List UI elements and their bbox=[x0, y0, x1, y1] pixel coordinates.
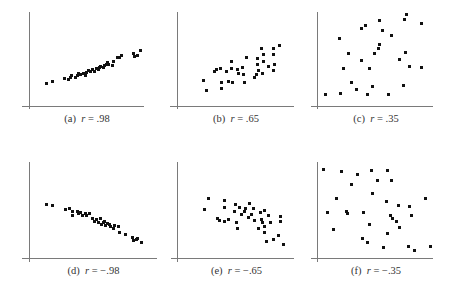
data-point bbox=[386, 232, 389, 235]
data-point bbox=[345, 210, 348, 213]
caption-r-value: = −.35 bbox=[371, 265, 401, 276]
scatter-panel-f: (f) r = −.35 bbox=[0, 0, 454, 291]
data-point bbox=[350, 183, 353, 186]
x-axis-line bbox=[311, 258, 433, 259]
data-point bbox=[332, 228, 335, 231]
data-point bbox=[385, 200, 388, 203]
data-point bbox=[370, 169, 373, 172]
data-point bbox=[356, 173, 359, 176]
data-point bbox=[391, 217, 394, 220]
data-point bbox=[362, 211, 365, 214]
data-point bbox=[395, 220, 398, 223]
data-point bbox=[371, 192, 374, 195]
data-point bbox=[407, 245, 410, 248]
data-point bbox=[368, 223, 371, 226]
data-point bbox=[366, 241, 369, 244]
caption-tag: (f) bbox=[351, 265, 362, 276]
correlation-scatter-figure: (a) r = .98(b) r = .65(c) r = .35(d) r =… bbox=[0, 0, 454, 291]
data-point bbox=[335, 197, 338, 200]
data-point bbox=[397, 204, 400, 207]
data-point bbox=[410, 214, 413, 217]
panel-caption: (f) r = −.35 bbox=[351, 265, 401, 276]
data-point bbox=[322, 168, 325, 171]
data-point bbox=[326, 211, 329, 214]
data-point bbox=[429, 245, 432, 248]
y-axis-line bbox=[317, 162, 318, 262]
data-point bbox=[390, 179, 393, 182]
data-point bbox=[386, 169, 389, 172]
data-point bbox=[398, 226, 401, 229]
data-point bbox=[361, 237, 364, 240]
data-point bbox=[382, 246, 385, 249]
data-point bbox=[424, 197, 427, 200]
data-point bbox=[376, 179, 379, 182]
data-point bbox=[408, 205, 411, 208]
data-point bbox=[340, 170, 343, 173]
data-point bbox=[413, 249, 416, 252]
